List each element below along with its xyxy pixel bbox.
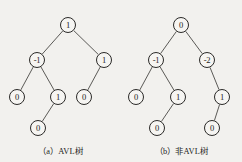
tree-node-label: -2 [204, 56, 210, 65]
tree-node-root: 1 [60, 17, 76, 33]
tree-edge [42, 31, 62, 54]
tree-node-label: 0 [155, 124, 159, 133]
tree-node-label: 0 [82, 93, 86, 102]
tree-edge [186, 31, 202, 53]
tree-node-left-right-left: 0 [30, 120, 46, 136]
caption-tree-a: （a）AVL树 [0, 144, 121, 156]
tree-node-left-child: -1 [29, 52, 45, 68]
tree-node-left-right: 1 [50, 89, 66, 105]
tree-node-label: 1 [102, 56, 106, 65]
tree-node-left-child: -1 [148, 52, 164, 68]
tree-node-left-right-left: 0 [149, 120, 165, 136]
tree-node-right-child: -2 [199, 52, 215, 68]
tree-node-label: 1 [176, 93, 180, 102]
tree-edge [41, 67, 54, 90]
tree-edge [214, 105, 219, 121]
tree-node-right-left: 0 [76, 89, 92, 105]
tree-edge [140, 67, 152, 90]
tree-node-right-right: 1 [214, 89, 230, 105]
tree-node-left-left: 0 [128, 89, 144, 105]
tree-edge [21, 67, 33, 90]
caption-tree-b: （b）非AVL树 [121, 144, 242, 156]
tree-node-label: 0 [179, 21, 183, 30]
tree-node-label: -1 [34, 56, 40, 65]
tree-node-label: 1 [66, 21, 70, 30]
tree-node-left-right: 1 [170, 89, 186, 105]
tree-edge [74, 31, 99, 55]
tree-node-right-child: 1 [96, 52, 112, 68]
tree-node-left-left: 0 [9, 89, 25, 105]
tree-node-label: 1 [56, 93, 60, 102]
tree-node-label: 1 [220, 93, 224, 102]
tree-edge [161, 32, 177, 54]
tree-edge [42, 104, 53, 122]
tree-edge [160, 67, 174, 90]
tree-node-root: 0 [173, 17, 189, 33]
tree-edge [210, 67, 219, 89]
avl-tree-figure: 1-110100 （a）AVL树 0-1-201100 （b）非AVL树 [0, 0, 242, 162]
tree-panel-a: 1-110100 （a）AVL树 [0, 0, 121, 162]
tree-panel-b: 0-1-201100 （b）非AVL树 [121, 0, 242, 162]
tree-node-label: 0 [210, 124, 214, 133]
tree-edge [88, 67, 100, 90]
tree-node-label: 0 [15, 93, 19, 102]
tree-edge [161, 104, 173, 122]
tree-node-label: 0 [134, 93, 138, 102]
tree-node-right-right-left: 0 [204, 120, 220, 136]
tree-node-label: 0 [36, 124, 40, 133]
tree-node-label: -1 [153, 56, 159, 65]
